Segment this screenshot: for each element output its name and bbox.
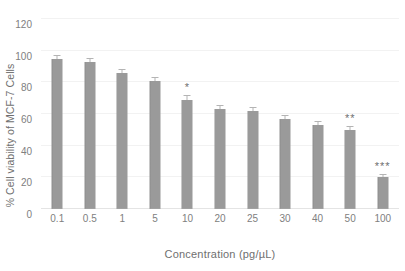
error-bar [57, 56, 58, 58]
error-bar-cap [347, 126, 354, 127]
bar-group: ** [334, 19, 367, 209]
error-bar [122, 70, 123, 73]
error-bar [382, 175, 383, 177]
bar-chart: % Cell viability of MCF-7 Cells 02040608… [0, 0, 405, 271]
error-bar [89, 59, 90, 62]
error-bar-cap [184, 95, 191, 96]
error-bar-cap [314, 121, 321, 122]
significance-annotation: ** [345, 114, 356, 122]
bar-group [74, 19, 107, 209]
x-tick-label: 20 [214, 213, 225, 224]
significance-annotation: * [185, 83, 190, 91]
bar [117, 73, 128, 209]
error-bar [187, 96, 188, 100]
error-bar-cap [119, 69, 126, 70]
error-bar-cap [86, 58, 93, 59]
x-tick-label: 1 [120, 213, 126, 224]
error-bar [285, 116, 286, 118]
bar-group: *** [366, 19, 399, 209]
error-bar [219, 106, 220, 109]
bar [280, 119, 291, 209]
bar-group [204, 19, 237, 209]
bar [247, 111, 258, 209]
bar-group [41, 19, 74, 209]
x-axis-ticks: 0.10.515102025304050100 [41, 213, 399, 229]
error-bar-cap [216, 105, 223, 106]
x-tick-label: 0.5 [83, 213, 97, 224]
error-bar-cap [379, 174, 386, 175]
x-tick-label: 100 [374, 213, 391, 224]
y-axis-ticks: 020406080100120 [0, 19, 36, 209]
x-tick-label: 5 [152, 213, 158, 224]
bar-group [106, 19, 139, 209]
bar [149, 81, 160, 209]
error-bar [317, 122, 318, 125]
error-bar [154, 78, 155, 80]
x-tick-label: 0.1 [50, 213, 64, 224]
bar-group [269, 19, 302, 209]
error-bar [350, 127, 351, 129]
bar [182, 100, 193, 209]
bar [84, 62, 95, 209]
bar [345, 130, 356, 209]
bar-group [236, 19, 269, 209]
x-tick-label: 10 [182, 213, 193, 224]
error-bar [252, 108, 253, 111]
error-bar-cap [151, 77, 158, 78]
error-bar-cap [54, 55, 61, 56]
x-tick-label: 25 [247, 213, 258, 224]
error-bar-cap [249, 107, 256, 108]
bar-group [301, 19, 334, 209]
bar [52, 59, 63, 209]
x-tick-label: 50 [345, 213, 356, 224]
bar [312, 125, 323, 209]
x-tick-label: 40 [312, 213, 323, 224]
error-bar-cap [282, 115, 289, 116]
bar [377, 177, 388, 209]
bar-group [139, 19, 172, 209]
x-tick-label: 30 [280, 213, 291, 224]
significance-annotation: *** [375, 162, 391, 170]
bar [214, 109, 225, 209]
bar-group: * [171, 19, 204, 209]
x-axis-title: Concentration (pg/µL) [41, 248, 399, 260]
bar-series: ****** [41, 19, 399, 209]
